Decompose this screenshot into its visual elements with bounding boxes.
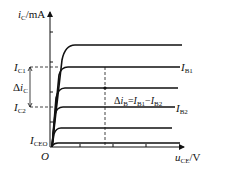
delta-ib-equation: ΔiB=IB1−IB2 [114,96,162,108]
ic2-label: IC2 [14,102,26,115]
delta-ic-label: ΔiC [13,82,28,95]
iceo-label: ICEO [30,135,48,148]
ic1-label: IC1 [14,62,26,75]
origin-label: O [41,151,49,162]
ib1-label: IB1 [181,62,193,75]
y-axis-label: iC/mA [18,9,45,22]
output-characteristics-diagram: iC/mA uCE/V O IC1 ΔiC IC2 ICEO IB1 IB2 Δ… [0,0,229,172]
x-axis-label: uCE/V [175,152,200,165]
ib2-label: IB2 [176,103,188,116]
operating-point [103,86,106,89]
